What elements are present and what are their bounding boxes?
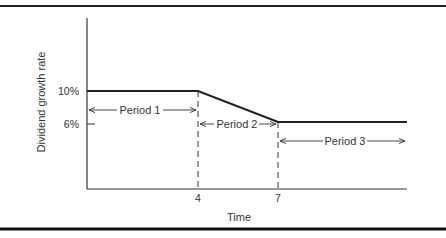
x-tick-label-7: 7 (275, 192, 281, 204)
period3-label: Period 3 (325, 135, 366, 147)
y-axis-label: Dividend growth rate (35, 52, 47, 153)
x-tick-label-4: 4 (195, 192, 201, 204)
y-tick-label-10: 10% (58, 85, 79, 97)
dividend-growth-chart: 10% 6% Dividend growth rate 4 7 Time Per… (0, 0, 446, 238)
x-axis-label: Time (227, 211, 251, 223)
period2-label: Period 2 (217, 118, 258, 130)
period1-label: Period 1 (120, 104, 161, 116)
y-tick-label-6: 6% (64, 118, 79, 130)
